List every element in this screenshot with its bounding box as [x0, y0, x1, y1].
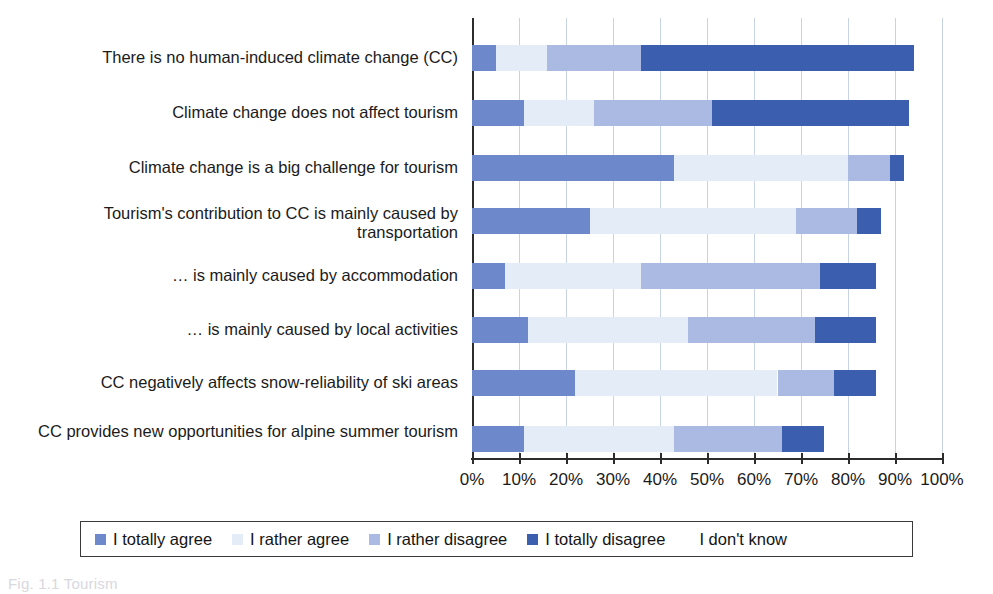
bar-segment [782, 426, 824, 452]
category-label: Tourism's contribution to CC is mainly c… [0, 204, 458, 242]
x-tick [707, 453, 709, 464]
x-tick-label: 90% [878, 470, 912, 490]
x-tick [848, 453, 850, 464]
x-tick-label: 0% [460, 470, 485, 490]
bar-segment [472, 263, 505, 289]
bar-segment [778, 370, 834, 396]
category-label: Climate change is a big challenge for to… [0, 158, 458, 177]
legend-item[interactable]: I totally agree [95, 530, 212, 549]
legend-label: I rather agree [250, 530, 349, 549]
x-tick-label: 70% [784, 470, 818, 490]
legend-swatch-icon [527, 534, 538, 545]
x-tick [472, 453, 474, 464]
x-tick-label: 20% [549, 470, 583, 490]
legend-label: I don't know [699, 530, 787, 549]
bar-segment [496, 45, 548, 71]
stacked-bar-chart: There is no human-induced climate change… [0, 0, 993, 594]
bar-segment [674, 426, 782, 452]
figure-caption: Fig. 1.1 Tourism [8, 575, 118, 592]
bar-segment [712, 100, 909, 126]
plot-area: There is no human-induced climate change… [0, 18, 993, 473]
bar-segment [796, 208, 857, 234]
bar-segment [472, 426, 524, 452]
bar-segment [641, 263, 820, 289]
legend-item[interactable]: I rather agree [232, 530, 349, 549]
bar-segment [848, 155, 890, 181]
bar-segment [505, 263, 641, 289]
bar-segment [815, 317, 876, 343]
category-label: CC negatively affects snow-reliability o… [0, 373, 458, 392]
x-tick [660, 453, 662, 464]
x-tick-label: 10% [502, 470, 536, 490]
bar-segment [528, 317, 688, 343]
bar-segment [688, 317, 815, 343]
bar-segment [547, 45, 641, 71]
bar-segment [472, 45, 496, 71]
bar-segment [575, 370, 777, 396]
legend-item[interactable]: I totally disagree [527, 530, 665, 549]
bar-segment [594, 100, 712, 126]
bar-row [472, 45, 942, 71]
x-tick-label: 50% [690, 470, 724, 490]
bar-row [472, 426, 942, 452]
x-tick [613, 453, 615, 464]
bar-row [472, 317, 942, 343]
category-label: Climate change does not affect tourism [0, 103, 458, 122]
category-label: … is mainly caused by accommodation [0, 266, 458, 285]
legend-swatch-icon [232, 534, 243, 545]
bar-row [472, 100, 942, 126]
legend-item[interactable]: I don't know [699, 530, 787, 549]
legend-label: I totally disagree [545, 530, 665, 549]
bar-segment [820, 263, 876, 289]
legend-item[interactable]: I rather disagree [369, 530, 507, 549]
x-tick [801, 453, 803, 464]
x-tick-label: 40% [643, 470, 677, 490]
bar-segment [472, 370, 575, 396]
x-tick [942, 453, 944, 464]
legend-label: I totally agree [113, 530, 212, 549]
x-tick-label: 100% [920, 470, 963, 490]
bar-segment [524, 100, 595, 126]
bar-segment [472, 317, 528, 343]
x-tick [754, 453, 756, 464]
category-label: CC provides new opportunities for alpine… [0, 422, 458, 441]
legend-swatch-icon [95, 534, 106, 545]
x-tick [519, 453, 521, 464]
bar-segment [857, 208, 881, 234]
bar-segment [472, 155, 674, 181]
gridline [942, 18, 943, 458]
bar-segment [590, 208, 797, 234]
bars-area [472, 18, 942, 458]
bar-row [472, 155, 942, 181]
bar-row [472, 208, 942, 234]
legend-swatch-icon [369, 534, 380, 545]
bar-segment [834, 370, 876, 396]
bar-segment [890, 155, 904, 181]
legend-label: I rather disagree [387, 530, 507, 549]
bar-row [472, 263, 942, 289]
bar-segment [472, 208, 590, 234]
bar-segment [674, 155, 848, 181]
x-tick-label: 60% [737, 470, 771, 490]
x-tick-label: 30% [596, 470, 630, 490]
bar-row [472, 370, 942, 396]
chart-legend: I totally agreeI rather agreeI rather di… [80, 521, 913, 557]
category-axis-labels: There is no human-induced climate change… [0, 18, 466, 458]
bar-segment [472, 100, 524, 126]
x-tick [895, 453, 897, 464]
x-tick-label: 80% [831, 470, 865, 490]
bar-segment [641, 45, 914, 71]
x-tick [566, 453, 568, 464]
category-label: There is no human-induced climate change… [0, 48, 458, 67]
bar-segment [524, 426, 674, 452]
category-label: … is mainly caused by local activities [0, 320, 458, 339]
